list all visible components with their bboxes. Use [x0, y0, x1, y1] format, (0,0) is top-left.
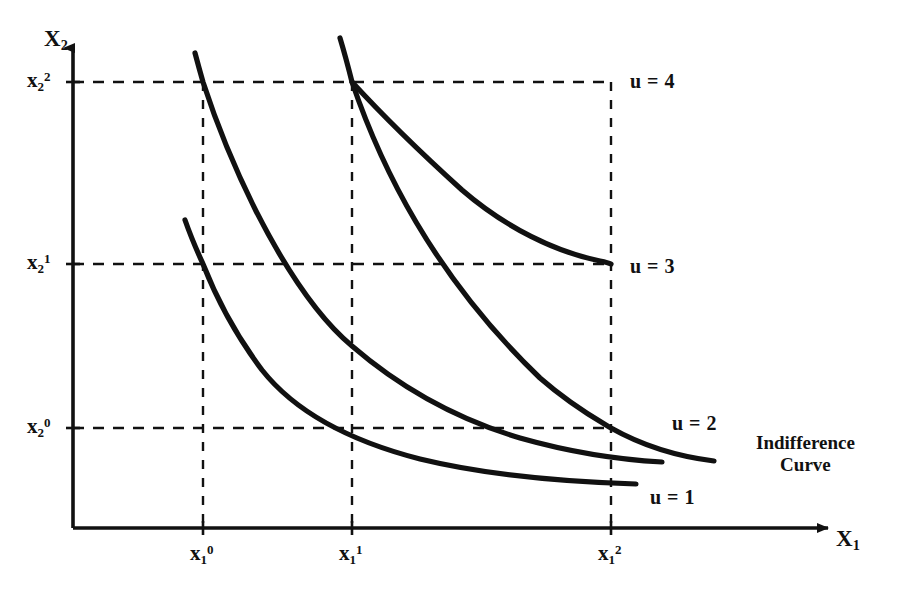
indifference-curve-u3	[340, 38, 714, 461]
y-tick-label-x2-0: x20	[27, 416, 51, 439]
y-tick-label-x2-2: x22	[27, 70, 51, 93]
curve-label-u3: u = 3	[630, 256, 675, 276]
annotation-line-1: Indifference	[756, 432, 855, 454]
y-axis-label: X2	[44, 27, 68, 52]
indifference-curve-figure: X2 X1 x22 x21 x20 x10 x11 x12 u = 4 u = …	[0, 0, 905, 601]
figure-canvas	[0, 0, 905, 601]
indifference-curve-annotation: Indifference Curve	[756, 432, 855, 476]
curve-label-u2: u = 2	[672, 413, 717, 433]
curve-label-u4: u = 4	[630, 71, 675, 91]
curve-label-u1: u = 1	[650, 487, 695, 507]
x-tick-label-x1-1: x11	[339, 543, 363, 566]
annotation-line-2: Curve	[756, 454, 855, 476]
x-tick-label-x1-2: x12	[598, 543, 622, 566]
x-axis-label: X1	[836, 527, 860, 552]
y-tick-label-x2-1: x21	[27, 252, 51, 275]
indifference-curve-u1	[185, 220, 636, 484]
x-tick-label-x1-0: x10	[190, 543, 214, 566]
